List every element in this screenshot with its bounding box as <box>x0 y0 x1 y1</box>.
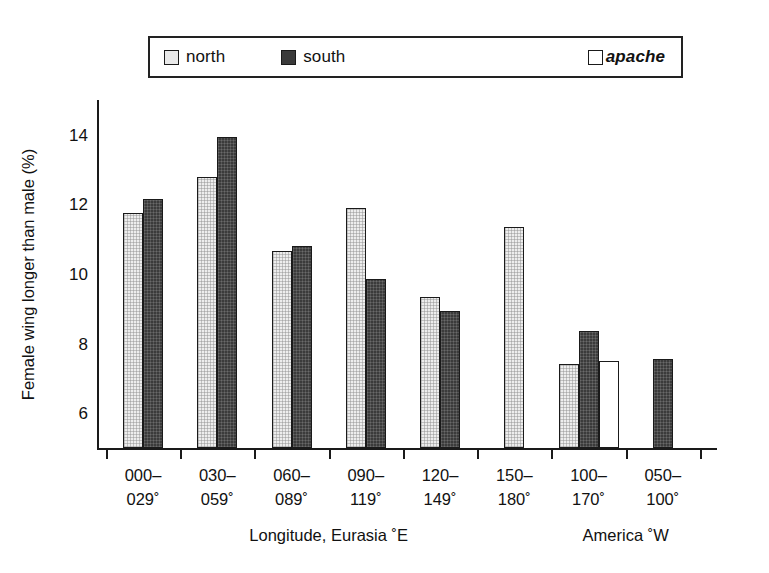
bar-apache <box>599 361 619 448</box>
x-axis-line <box>97 448 717 450</box>
bar-south <box>440 311 460 448</box>
bar-north <box>504 227 524 448</box>
x-tick-label-line2: 089˚ <box>273 488 310 512</box>
x-tick-label-line1: 150– <box>496 466 533 484</box>
y-axis-title-text: Female wing longer than male (%) <box>20 148 39 399</box>
legend-item-apache: apache <box>588 47 665 67</box>
bar-north <box>346 208 366 448</box>
x-axis-tick <box>106 448 108 459</box>
legend-label-south: south <box>303 47 345 67</box>
bar-north <box>559 364 579 448</box>
x-tick-label: 060–089˚ <box>273 464 310 512</box>
bar-south <box>292 246 312 448</box>
x-tick-label-line2: 029˚ <box>125 488 162 512</box>
y-tick-label: 10 <box>69 266 88 283</box>
x-tick-label-line2: 059˚ <box>199 488 236 512</box>
x-tick-label-line1: 050– <box>644 466 681 484</box>
x-tick-label-line1: 120– <box>422 466 459 484</box>
y-tick-label: 6 <box>79 405 88 422</box>
chart-legend: north south apache <box>148 36 683 78</box>
x-axis-section-title: America ˚W <box>583 526 669 545</box>
y-tick-label: 12 <box>69 196 88 213</box>
x-axis-tick <box>700 448 702 459</box>
x-tick-label-line2: 170˚ <box>570 488 607 512</box>
legend-swatch-north-icon <box>164 50 179 65</box>
bar-south <box>217 137 237 448</box>
x-tick-label-line1: 060– <box>273 466 310 484</box>
bar-group <box>197 100 237 448</box>
legend-item-north: north <box>164 47 225 67</box>
x-axis-tick <box>551 448 553 459</box>
y-axis-title: Female wing longer than male (%) <box>16 100 42 448</box>
x-tick-label: 120–149˚ <box>422 464 459 512</box>
bar-group <box>272 100 312 448</box>
bar-south <box>143 199 163 448</box>
x-tick-label-line1: 090– <box>347 466 384 484</box>
legend-label-north: north <box>186 47 225 67</box>
bar-group <box>559 100 619 448</box>
x-tick-label-line1: 100– <box>570 466 607 484</box>
x-tick-label: 000–029˚ <box>125 464 162 512</box>
bars-layer <box>97 100 717 448</box>
bar-south <box>653 359 673 448</box>
y-tick-label: 8 <box>79 335 88 352</box>
legend-swatch-apache-icon <box>588 50 603 65</box>
bar-group <box>504 100 524 448</box>
x-tick-label: 050–100˚ <box>644 464 681 512</box>
bar-group <box>653 100 673 448</box>
bar-group <box>123 100 163 448</box>
x-tick-label-line1: 030– <box>199 466 236 484</box>
x-tick-label-line2: 119˚ <box>347 488 384 512</box>
bar-north <box>197 177 217 448</box>
x-tick-label: 030–059˚ <box>199 464 236 512</box>
bar-south <box>366 279 386 448</box>
y-tick-label: 14 <box>69 126 88 143</box>
plot-area: 68101214 <box>97 100 717 448</box>
bar-north <box>123 213 143 448</box>
x-tick-label: 090–119˚ <box>347 464 384 512</box>
x-axis-tick <box>329 448 331 459</box>
bar-north <box>420 297 440 448</box>
x-axis-tick <box>477 448 479 459</box>
x-tick-label-line2: 100˚ <box>644 488 681 512</box>
x-tick-label-line2: 149˚ <box>422 488 459 512</box>
legend-item-south: south <box>281 47 345 67</box>
x-axis-tick <box>254 448 256 459</box>
x-tick-label-line2: 180˚ <box>496 488 533 512</box>
legend-label-apache: apache <box>606 47 665 67</box>
chart-figure: north south apache Female wing longer th… <box>0 0 769 573</box>
x-axis-section-title: Longitude, Eurasia ˚E <box>249 526 408 545</box>
bar-north <box>272 251 292 448</box>
bar-group <box>420 100 460 448</box>
x-tick-label: 150–180˚ <box>496 464 533 512</box>
x-tick-label-line1: 000– <box>125 466 162 484</box>
x-tick-label: 100–170˚ <box>570 464 607 512</box>
x-axis-tick <box>180 448 182 459</box>
legend-swatch-south-icon <box>281 50 296 65</box>
bar-south <box>579 331 599 448</box>
x-axis-tick <box>403 448 405 459</box>
bar-group <box>346 100 386 448</box>
x-axis-tick <box>626 448 628 459</box>
